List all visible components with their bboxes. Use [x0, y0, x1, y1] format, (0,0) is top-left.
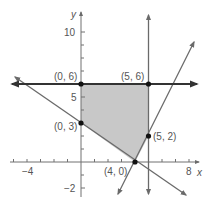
x-axis	[10, 159, 199, 162]
tick-label-5: 5	[71, 92, 77, 103]
x-axis-label: x	[196, 167, 203, 178]
point-5-6	[146, 81, 151, 86]
graph-canvas: y x 10 5 −2 −4 8 (0, 6) (5, 6) (0, 3) (5…	[0, 0, 210, 208]
label-point-5-2: (5, 2)	[153, 131, 176, 142]
point-0-6	[78, 81, 83, 86]
label-point-4-0: (4, 0)	[104, 166, 127, 177]
tick-label-10: 10	[64, 27, 76, 38]
point-4-0	[132, 159, 137, 164]
tick-label-neg4: −4	[22, 166, 34, 177]
point-0-3	[78, 120, 83, 125]
point-5-2	[146, 133, 151, 138]
y-axis-label: y	[70, 9, 77, 20]
label-point-0-6: (0, 6)	[54, 71, 77, 82]
tick-label-neg2: −2	[64, 183, 76, 194]
label-point-0-3: (0, 3)	[54, 121, 77, 132]
tick-label-8: 8	[186, 166, 192, 177]
label-point-5-6: (5, 6)	[121, 71, 144, 82]
feasible-region	[81, 84, 149, 162]
feasible-region-graph: y x 10 5 −2 −4 8 (0, 6) (5, 6) (0, 3) (5…	[0, 0, 210, 208]
